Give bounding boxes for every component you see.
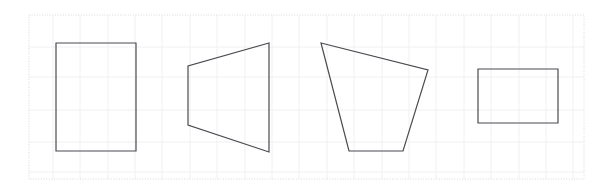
shapes-figure [0, 0, 611, 193]
figure-canvas [0, 0, 611, 193]
